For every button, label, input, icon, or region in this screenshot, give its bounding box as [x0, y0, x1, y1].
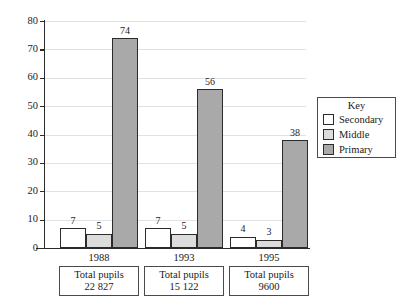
legend-swatch-middle-icon: [323, 129, 334, 140]
bar-value-1995-secondary: 4: [230, 224, 256, 234]
x-axis-line: [36, 248, 310, 250]
chart-legend: Key Secondary Middle Primary: [317, 97, 396, 158]
legend-item-middle: Middle: [323, 128, 395, 142]
y-tick-mark-0: [40, 248, 45, 249]
bar-1988-secondary: [60, 228, 86, 248]
gridline-40: [45, 135, 306, 136]
total-pupils-value-1995: 9600: [230, 281, 308, 293]
gridline-30: [45, 163, 306, 164]
bar-value-1988-secondary: 7: [60, 216, 86, 226]
y-tick-mark-60: [40, 78, 45, 79]
total-pupils-value-1988: 22 827: [60, 281, 138, 293]
total-pupils-label-1993: Total pupils: [145, 269, 223, 281]
gridline-60: [45, 78, 306, 79]
gridline-70: [45, 49, 306, 50]
bar-1988-primary: [112, 38, 138, 248]
bar-value-1988-middle: 5: [86, 221, 112, 231]
total-pupils-value-1993: 15 122: [145, 281, 223, 293]
y-tick-label-10: 10: [16, 214, 38, 225]
x-tick-label-1993: 1993: [145, 252, 223, 263]
total-pupils-label-1988: Total pupils: [60, 269, 138, 281]
y-tick-label-50: 50: [16, 101, 38, 112]
total-pupils-label-1995: Total pupils: [230, 269, 308, 281]
x-tick-label-1995: 1995: [230, 252, 308, 263]
y-tick-mark-80: [40, 21, 45, 22]
legend-swatch-secondary-icon: [323, 114, 334, 125]
legend-swatch-primary-icon: [323, 144, 334, 155]
y-tick-mark-40: [40, 135, 45, 136]
y-tick-label-30: 30: [16, 157, 38, 168]
bar-chart: 7 5 74 7 5 56 4 3 38 80 70 60 50 40 30 2…: [0, 0, 411, 305]
legend-title: Key: [318, 100, 395, 112]
x-tick-label-1988: 1988: [60, 252, 138, 263]
bar-value-1995-primary: 38: [282, 128, 308, 138]
bar-1995-secondary: [230, 237, 256, 248]
bar-1993-primary: [197, 89, 223, 248]
legend-item-primary: Primary: [323, 143, 395, 157]
y-tick-label-70: 70: [16, 44, 38, 55]
y-tick-label-80: 80: [16, 16, 38, 27]
bar-value-1993-secondary: 7: [145, 216, 171, 226]
legend-label-primary: Primary: [339, 143, 373, 156]
bar-value-1988-primary: 74: [112, 26, 138, 36]
legend-label-middle: Middle: [339, 128, 369, 141]
y-tick-mark-10: [40, 220, 45, 221]
total-pupils-box-1988: Total pupils 22 827: [59, 266, 139, 296]
plot-area: 7 5 74 7 5 56 4 3 38: [45, 21, 306, 248]
y-tick-label-0: 0: [16, 243, 38, 254]
total-pupils-box-1993: Total pupils 15 122: [144, 266, 224, 296]
gridline-80: [45, 21, 306, 22]
bar-1995-primary: [282, 140, 308, 248]
gridline-20: [45, 191, 306, 192]
gridline-50: [45, 106, 306, 107]
y-tick-mark-20: [40, 191, 45, 192]
y-tick-label-60: 60: [16, 72, 38, 83]
y-tick-label-40: 40: [16, 129, 38, 140]
bar-1988-middle: [86, 234, 112, 248]
legend-label-secondary: Secondary: [339, 113, 383, 126]
total-pupils-box-1995: Total pupils 9600: [229, 266, 309, 296]
y-tick-label-20: 20: [16, 186, 38, 197]
bar-value-1995-middle: 3: [256, 227, 282, 237]
y-tick-mark-50: [40, 106, 45, 107]
legend-item-secondary: Secondary: [323, 113, 395, 127]
y-tick-mark-70: [40, 49, 45, 50]
bar-1993-middle: [171, 234, 197, 248]
bar-1993-secondary: [145, 228, 171, 248]
bar-value-1993-middle: 5: [171, 221, 197, 231]
y-tick-mark-30: [40, 163, 45, 164]
bar-value-1993-primary: 56: [197, 77, 223, 87]
